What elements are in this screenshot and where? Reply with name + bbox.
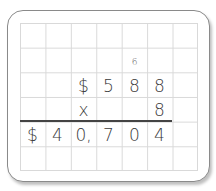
answer-digit-ten-thousands: 4	[45, 122, 70, 147]
multiplicand-dollar: $	[71, 73, 96, 98]
answer-digit-thousands: 0,	[71, 122, 96, 147]
multiplier-digit: 8	[147, 97, 172, 122]
multiply-operator: x	[71, 97, 96, 122]
multiplicand-digit-ones: 8	[147, 73, 172, 98]
answer-digit-tens: 0	[122, 122, 147, 147]
answer-dollar: $	[20, 122, 45, 147]
multiplicand-digit-hundreds: 5	[96, 73, 121, 98]
answer-digit-hundreds: 7	[96, 122, 121, 147]
multiplicand-digit-tens: 8	[122, 73, 147, 98]
carry-digit: 6	[122, 49, 147, 74]
answer-digit-ones: 4	[147, 122, 172, 147]
